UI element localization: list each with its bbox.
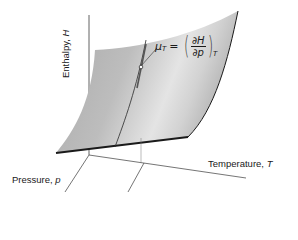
formula-mu-subscript: T: [162, 45, 166, 53]
state-point: [139, 65, 143, 69]
formula-equals: =: [169, 40, 178, 53]
left-paren: (: [184, 34, 189, 58]
joule-thomson-formula: μ T = ( ∂H ∂p ) T: [155, 34, 217, 58]
formula-denominator: ∂p: [192, 47, 204, 58]
pressure-axis: [65, 155, 89, 192]
pressure-axis-label: Pressure, p: [12, 174, 61, 185]
enthalpy-axis-label: Enthalpy, H: [60, 30, 71, 78]
formula-fraction: ∂H ∂p: [191, 35, 206, 58]
temperature-axis-label: Temperature, T: [208, 158, 272, 169]
formula-numerator: ∂H: [191, 35, 206, 47]
formula-constant-subscript: T: [213, 50, 217, 58]
projection-base: [128, 163, 144, 192]
formula-mu: μ: [155, 40, 162, 53]
